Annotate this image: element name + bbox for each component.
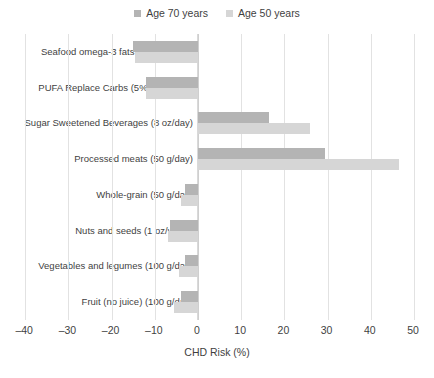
category-label: Vegetables and legumes (100 g/day)	[0, 260, 193, 271]
bar-age-70[interactable]	[198, 112, 269, 123]
bar-age-50[interactable]	[146, 88, 198, 99]
x-axis-title: CHD Risk (%)	[0, 346, 434, 358]
legend-swatch-age-50	[226, 10, 233, 17]
x-tick-label: –10	[145, 324, 163, 336]
bar-age-50[interactable]	[181, 195, 198, 206]
bar-row	[198, 112, 413, 134]
bar-age-70[interactable]	[146, 77, 198, 88]
category-label: Nuts and seeds (1 oz/week)	[0, 225, 193, 236]
bar-age-70[interactable]	[170, 220, 198, 231]
bar-age-70[interactable]	[185, 255, 198, 266]
bar-age-50[interactable]	[168, 231, 198, 242]
legend-label-age-70: Age 70 years	[146, 8, 208, 19]
x-tick-label: 10	[234, 324, 246, 336]
legend-swatch-age-70	[134, 10, 141, 17]
legend-label-age-50: Age 50 years	[238, 8, 300, 19]
category-label: Whole-grain (50 g/day)	[0, 189, 193, 200]
x-tick-label: –20	[102, 324, 120, 336]
bar-row	[198, 148, 413, 170]
x-tick-label: 30	[321, 324, 333, 336]
bar-age-50[interactable]	[198, 123, 310, 134]
chd-risk-bar-chart: Age 70 years Age 50 years Seafood omega-…	[0, 0, 434, 378]
bar-age-50[interactable]	[135, 52, 198, 63]
bar-age-50[interactable]	[198, 159, 399, 170]
bar-row	[198, 77, 413, 99]
x-tick-label: –30	[59, 324, 77, 336]
bar-age-70[interactable]	[185, 184, 198, 195]
bar-row	[198, 220, 413, 242]
category-label: Sugar Sweetened Beverages (8 oz/day)	[0, 117, 193, 128]
category-label: Fruit (no juice) (100 g/day)	[0, 296, 193, 307]
bar-age-70[interactable]	[133, 41, 198, 52]
bar-row	[198, 184, 413, 206]
bar-row	[198, 41, 413, 63]
bar-age-50[interactable]	[174, 302, 198, 313]
bar-age-50[interactable]	[179, 266, 198, 277]
bar-rows	[198, 34, 413, 320]
legend-item-age-50[interactable]: Age 50 years	[226, 8, 300, 19]
bar-age-70[interactable]	[198, 148, 325, 159]
bar-age-70[interactable]	[181, 291, 198, 302]
bar-row	[198, 291, 413, 313]
x-tick-label: 40	[364, 324, 376, 336]
bar-row	[198, 255, 413, 277]
x-tick-label: 0	[194, 324, 200, 336]
gridline	[414, 34, 415, 320]
category-label: Processed meats (50 g/day)	[0, 153, 193, 164]
x-tick-label: 20	[278, 324, 290, 336]
legend-item-age-70[interactable]: Age 70 years	[134, 8, 208, 19]
x-tick-label: –40	[15, 324, 33, 336]
x-axis-ticks: –40–30–20–1001020304050	[197, 320, 413, 340]
x-tick-label: 50	[407, 324, 419, 336]
chart-legend: Age 70 years Age 50 years	[0, 8, 434, 19]
plot-area	[197, 34, 413, 320]
